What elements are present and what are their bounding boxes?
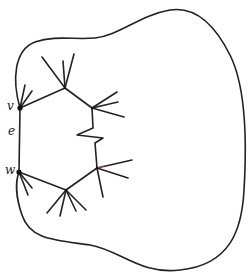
upper2-leaf [92,108,124,117]
lower2-leaf [97,168,128,178]
diagram-canvas [0,0,252,277]
upper1-leaf [42,57,65,88]
vertex-lower1 [65,189,67,191]
upper1-leaf [63,61,65,88]
label-e: e [8,124,15,138]
edge-upper1-upper2 [65,88,92,108]
upper1-leaf [65,54,74,88]
lower1-leaf [66,190,86,210]
vertex-w [16,169,21,174]
outer-boundary-curve [16,9,246,270]
edge-lower2-lower1 [66,168,97,190]
lower1-leaf [66,190,76,211]
vertex-v [17,105,22,110]
vertex-upper2 [91,107,93,109]
vertex-upper1 [64,87,66,89]
vertex-lower2 [96,167,98,169]
label-w: w [5,163,15,177]
label-v: v [7,99,14,113]
zigzag-path [77,108,103,168]
lower2-leaf [97,168,103,197]
edge-e [19,108,20,172]
